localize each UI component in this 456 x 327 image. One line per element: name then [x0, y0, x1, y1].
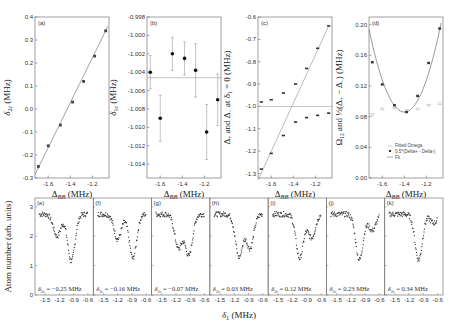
svg-text:-1.2: -1.2: [404, 297, 415, 303]
svg-text:-1.2: -1.2: [171, 297, 182, 303]
y-tick-label: -1.2: [246, 148, 257, 154]
panel-label: (b): [150, 20, 157, 26]
svg-text:0.5*(Delta+ - Delta-): 0.5*(Delta+ - Delta-): [395, 149, 436, 154]
svg-text:-0.9: -0.9: [418, 297, 429, 303]
svg-text:-0.9: -0.9: [127, 297, 138, 303]
data-point: [260, 168, 263, 170]
y-axis-label: Δ+ and Δ− at δ1 = 0 (MHz): [222, 50, 233, 144]
x-tick-label: -1.2: [421, 181, 432, 187]
svg-text:-1.5: -1.5: [390, 297, 401, 303]
x-tick-label: -1.6: [266, 181, 277, 187]
data-point: [282, 92, 285, 94]
panel-label: (d): [372, 20, 379, 26]
svg-text:-0.9: -0.9: [185, 297, 196, 303]
data-point: [93, 55, 96, 58]
panel-label: (f): [95, 200, 101, 206]
spectrum-panel-e: -1.5-1.2-0.9-0.6(e)δ2c = −0.25 MHz: [35, 198, 94, 303]
panel-a: -0.3-0.2-0.10.00.10.20.30.4-1.6-1.4-1.2(…: [2, 14, 109, 200]
data-point: [194, 69, 198, 73]
spectrum-panel-j: -1.5-1.2-0.9-0.6(j)δ2c = 0.23 MHz: [326, 198, 385, 303]
y-tick-label: 0.08: [355, 114, 367, 120]
y-tick-label: -1.008: [128, 106, 146, 112]
data-point: [104, 29, 107, 32]
y-tick-label: -0.8: [246, 59, 257, 65]
svg-text:-1.2: -1.2: [229, 297, 240, 303]
y-axis-label: δ2c (MHz): [2, 79, 13, 116]
svg-text:Fit: Fit: [395, 155, 401, 160]
x-axis-label: ΔBB (MHz): [52, 189, 93, 200]
spectrum-panel-g: -1.5-1.2-0.9-0.6(g)δ2c = −0.07 MHz: [152, 198, 211, 303]
data-point: [158, 116, 162, 120]
x-axis-label: δ1 (MHz): [222, 310, 256, 321]
panel-b: -0.998-1.000-1.002-1.004-1.006-1.008-1.0…: [108, 14, 221, 200]
panel-d: 0.000.040.080.120.160.20-1.6-1.4-1.2Fitt…: [334, 17, 443, 200]
data-point: [327, 25, 330, 27]
data-point: [171, 52, 175, 56]
y-tick-label: 0.20: [355, 22, 367, 28]
x-tick-label: -1.4: [177, 181, 188, 187]
detuning-annotation: δ2c = −0.16 MHz: [96, 285, 140, 294]
y-tick-label: -1.000: [128, 32, 146, 38]
svg-text:2: 2: [30, 233, 34, 239]
data-point: [282, 135, 285, 137]
svg-text:0: 0: [30, 292, 34, 298]
panel-label: (k): [387, 200, 394, 206]
panel-c: -1.3-1.2-1.1-1.0-0.9-0.8-0.7-0.6-1.6-1.4…: [222, 14, 332, 200]
y-tick-label: 0.1: [25, 83, 34, 89]
svg-text:-0.9: -0.9: [302, 297, 313, 303]
x-tick-label: -1.2: [87, 181, 98, 187]
y-tick-label: 0.3: [25, 37, 34, 43]
detuning-annotation: δ2c = 0.34 MHz: [388, 285, 428, 294]
x-tick-label: -1.4: [288, 181, 299, 187]
y-tick-label: -0.3: [23, 175, 34, 181]
svg-text:-0.9: -0.9: [243, 297, 254, 303]
data-point: [270, 99, 273, 101]
y-tick-label: 0.0: [25, 106, 34, 112]
svg-text:-1.2: -1.2: [346, 297, 357, 303]
legend: Fitted Omega0.5*(Delta+ - Delta-)Fit: [387, 143, 436, 160]
data-point: [149, 70, 153, 74]
spectrum-panel-f: -1.5-1.2-0.9-0.6(f)δ2c = −0.16 MHz: [93, 198, 152, 303]
y-tick-label: -1.0: [246, 103, 257, 109]
y-axis-label: Ω12 and ½(Δ+ − Δ−) (MHz): [334, 49, 345, 145]
data-point: [260, 101, 263, 103]
y-tick-label: 0.4: [25, 14, 34, 20]
data-point: [316, 48, 319, 50]
data-point: [438, 27, 441, 29]
data-point: [82, 80, 85, 83]
spectrum-panel-k: -1.5-1.2-0.9-0.6(k)δ2c = 0.34 MHz: [385, 198, 444, 303]
panel-label: (j): [328, 200, 333, 206]
svg-text:-0.9: -0.9: [68, 297, 79, 303]
y-tick-label: -0.7: [246, 36, 257, 42]
svg-text:-0.6: -0.6: [199, 297, 210, 303]
svg-text:3: 3: [30, 204, 34, 210]
detuning-annotation: δ2c = 0.12 MHz: [271, 285, 311, 294]
y-tick-label: -0.998: [128, 14, 146, 20]
svg-text:-0.9: -0.9: [360, 297, 371, 303]
data-point: [270, 153, 273, 155]
y-tick-label: -0.9: [246, 81, 257, 87]
svg-text:-1.5: -1.5: [157, 297, 168, 303]
data-point: [47, 144, 50, 147]
data-point: [216, 98, 220, 102]
svg-text:-1.2: -1.2: [113, 297, 124, 303]
data-point: [305, 117, 308, 119]
y-tick-label: -1.004: [128, 69, 146, 75]
svg-text:-1.2: -1.2: [287, 297, 298, 303]
spectrum-panel-i: -1.5-1.2-0.9-0.6(i)δ2c = 0.12 MHz: [268, 198, 327, 303]
svg-text:-0.6: -0.6: [141, 297, 152, 303]
x-axis-label: ΔBB (MHz): [164, 189, 205, 200]
y-tick-label: -1.1: [246, 126, 257, 132]
svg-text:-0.6: -0.6: [83, 297, 94, 303]
panel-label: (g): [154, 200, 161, 206]
panel-label: (c): [261, 20, 268, 26]
data-point: [405, 111, 408, 113]
svg-text:1: 1: [30, 263, 34, 269]
data-point: [183, 57, 187, 61]
svg-text:-0.6: -0.6: [432, 297, 443, 303]
y-tick-label: 0.16: [355, 52, 367, 58]
svg-text:-1.5: -1.5: [215, 297, 226, 303]
y-tick-label: -1.010: [128, 124, 146, 130]
svg-text:-0.6: -0.6: [316, 297, 327, 303]
detuning-annotation: δ2c = −0.25 MHz: [38, 285, 82, 294]
